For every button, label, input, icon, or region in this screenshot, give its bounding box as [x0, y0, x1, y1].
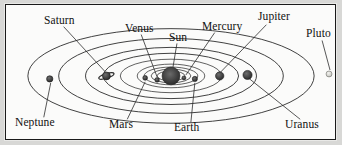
uranus-body	[243, 70, 252, 79]
neptune-body	[47, 76, 53, 82]
label-neptune: Neptune	[15, 117, 55, 129]
label-mercury: Mercury	[202, 21, 242, 33]
label-mars: Mars	[109, 119, 133, 131]
sun-body	[162, 67, 180, 85]
body-pluto	[326, 71, 332, 77]
body-mercury	[182, 76, 186, 80]
label-sun: Sun	[169, 32, 187, 44]
label-uranus: Uranus	[285, 119, 319, 131]
earth-body	[192, 76, 197, 81]
mercury-body	[182, 76, 186, 80]
label-earth: Earth	[174, 122, 199, 134]
leader-pluto	[322, 40, 330, 70]
leader-saturn	[64, 27, 106, 72]
body-jupiter	[216, 72, 224, 80]
leader-mars	[127, 82, 145, 119]
body-venus	[155, 78, 160, 83]
label-pluto: Pluto	[306, 28, 331, 40]
body-saturn	[98, 71, 114, 80]
jupiter-body	[216, 72, 224, 80]
body-mars	[143, 76, 148, 81]
pluto-body	[326, 71, 332, 77]
mars-body	[143, 76, 148, 81]
figure-plate: Saturn Venus Mercury Jupiter Sun Pluto N…	[5, 4, 336, 140]
leader-uranus	[250, 79, 301, 119]
leader-earth	[191, 83, 195, 122]
body-sun	[162, 67, 180, 85]
label-jupiter: Jupiter	[258, 11, 290, 23]
label-venus: Venus	[125, 23, 154, 35]
body-neptune	[47, 76, 53, 82]
label-saturn: Saturn	[44, 15, 75, 27]
body-earth	[192, 76, 197, 81]
solar-system-figure: Saturn Venus Mercury Jupiter Sun Pluto N…	[0, 0, 342, 145]
saturn-body	[102, 72, 110, 80]
venus-body	[155, 78, 160, 83]
body-uranus	[243, 70, 252, 79]
leader-neptune	[44, 83, 51, 117]
